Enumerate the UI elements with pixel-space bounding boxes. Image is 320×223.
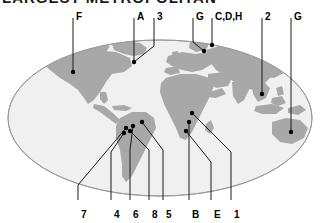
- world-map-figure: LARGEST METROPOLITAN: [0, 0, 320, 223]
- label-3: 3: [157, 11, 163, 22]
- leader-5-marker-dot: [140, 120, 144, 124]
- leader-7-marker-dot: [124, 126, 128, 130]
- land-new-zealand: [310, 143, 317, 153]
- label-4: 4: [114, 209, 120, 220]
- label-5: 5: [166, 209, 172, 220]
- land-british-isles: [172, 51, 179, 58]
- label-1: 1: [234, 209, 240, 220]
- label-G2: G: [294, 11, 302, 22]
- label-8: 8: [152, 209, 158, 220]
- label-2: 2: [265, 11, 271, 22]
- land-korea: [282, 65, 288, 72]
- leader-4-marker-dot: [122, 131, 126, 135]
- label-7: 7: [81, 209, 87, 220]
- label-E: E: [214, 209, 221, 220]
- world-map-graphic: [0, 0, 320, 223]
- label-A: A: [137, 11, 144, 22]
- leader-6-marker-dot: [131, 124, 135, 128]
- label-CDH: C,D,H: [215, 11, 242, 22]
- land-kamchatka: [291, 42, 304, 54]
- leader-8-marker-dot: [128, 129, 132, 133]
- leader-E-marker-dot: [184, 129, 188, 133]
- label-F: F: [76, 11, 82, 22]
- leader-B-marker-dot: [187, 120, 191, 124]
- leader-1-marker-dot: [190, 111, 194, 115]
- leader-3-marker-dot: [132, 60, 136, 64]
- label-B: B: [192, 209, 199, 220]
- leader-2-marker-dot: [260, 92, 264, 96]
- label-G1: G: [196, 11, 204, 22]
- label-6: 6: [133, 209, 139, 220]
- leader-G2-marker-dot: [289, 130, 293, 134]
- leader-G1-marker-dot: [202, 49, 206, 53]
- leader-CDH-marker-dot: [210, 43, 214, 47]
- leader-F-marker-dot: [71, 70, 75, 74]
